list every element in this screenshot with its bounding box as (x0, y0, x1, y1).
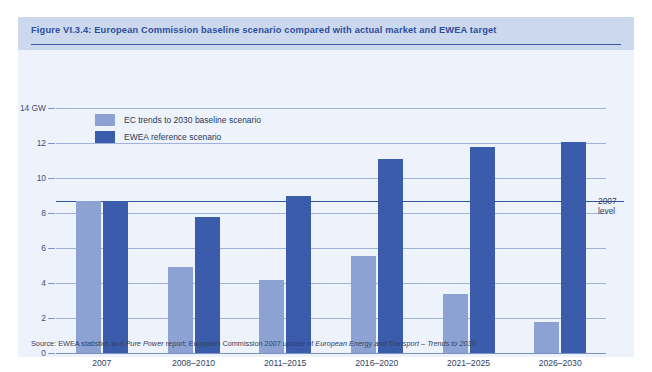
figure-header-band: Figure VI.3.4: European Commission basel… (18, 17, 634, 50)
source-note-italic-1: Pure Power (126, 339, 164, 348)
y-tick-dash-2 (48, 318, 55, 319)
x-tick-label-2016–2020: 2016–2020 (331, 358, 423, 368)
x-tick-label-2011–2015: 2011–2015 (239, 358, 331, 368)
title-underline-rule (31, 44, 621, 45)
y-tick-dash-8 (48, 213, 55, 214)
x-tick-label-2007: 2007 (56, 358, 148, 368)
y-tick-label-4: 4 (12, 279, 46, 287)
bar-ewea-2007 (103, 201, 128, 353)
x-tick-label-2026–2030: 2026–2030 (514, 358, 606, 368)
bar-ewea-2008–2010 (195, 217, 220, 354)
y-tick-label-14: 14 GW (12, 104, 46, 112)
y-tick-label-0: 0 (12, 349, 46, 357)
source-note-prefix: Source: EWEA statistics and (31, 339, 126, 348)
figure-title: Figure VI.3.4: European Commission basel… (31, 25, 497, 35)
bar-ewea-2021–2025 (470, 147, 495, 353)
bar-ewea-2011–2015 (286, 196, 311, 354)
legend-label-ec: EC trends to 2030 baseline scenario (124, 115, 261, 125)
x-axis-line (56, 353, 606, 354)
y-tick-dash-4 (48, 283, 55, 284)
y-tick-dash-0 (48, 353, 55, 354)
x-tick-label-2021–2025: 2021–2025 (423, 358, 515, 368)
legend-swatch-ewea-icon (95, 131, 115, 143)
source-note: Source: EWEA statistics and Pure Power r… (31, 339, 476, 348)
bar-ec-2026–2030 (534, 322, 559, 353)
source-note-italic-2: European Energy and Transport – Trends t… (315, 339, 475, 348)
y-tick-label-12: 12 (12, 139, 46, 147)
bar-ec-2007 (76, 201, 101, 353)
y-tick-dash-14 (48, 108, 55, 109)
legend-swatch-ec-icon (95, 114, 115, 126)
y-tick-dash-6 (48, 248, 55, 249)
bar-ewea-2016–2020 (378, 159, 403, 353)
figure-container: Figure VI.3.4: European Commission basel… (18, 17, 634, 357)
y-tick-label-6: 6 (12, 244, 46, 252)
legend-item-ewea: EWEA reference scenario (95, 130, 261, 144)
chart-plot-area: 02468101214 GW 2007 level 20072008–20102… (18, 50, 634, 357)
y-tick-label-2: 2 (12, 314, 46, 322)
y-tick-label-10: 10 (12, 174, 46, 182)
y-tick-dash-10 (48, 178, 55, 179)
x-tick-label-2008–2010: 2008–2010 (148, 358, 240, 368)
legend-label-ewea: EWEA reference scenario (124, 132, 221, 142)
chart-legend: EC trends to 2030 baseline scenario EWEA… (95, 113, 261, 147)
y-tick-label-8: 8 (12, 209, 46, 217)
y-tick-dash-12 (48, 143, 55, 144)
bar-ewea-2026–2030 (561, 142, 586, 353)
source-note-mid: report; European Commission 2007 update … (164, 339, 316, 348)
legend-item-ec: EC trends to 2030 baseline scenario (95, 113, 261, 127)
